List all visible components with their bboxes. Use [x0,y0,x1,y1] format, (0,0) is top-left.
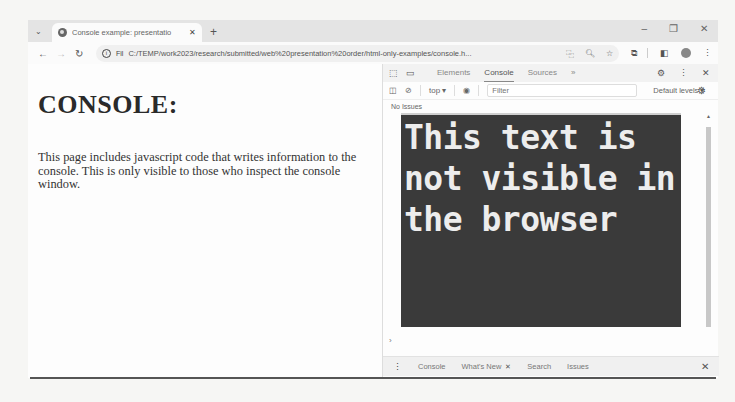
tab-strip: ⌄ Console example: presentatio ✕ + – ❐ ✕ [28,20,718,42]
extensions-icon[interactable]: ⧉ [631,48,637,59]
tab-title: Console example: presentatio [72,28,184,37]
tab-elements[interactable]: Elements [437,64,470,82]
translate-icon[interactable]: ⿻ [566,48,574,59]
info-icon[interactable]: i [102,49,111,58]
drawer-tab-issues[interactable]: Issues [567,362,589,371]
kebab-menu-icon[interactable]: ⋮ [679,68,688,78]
minimize-icon[interactable]: – [641,23,647,34]
filter-input[interactable] [487,84,637,97]
url-text[interactable]: C:/TEMP/work2023/research/submitted/web%… [128,49,555,58]
browser-menu-icon[interactable]: ⋮ [703,48,712,58]
window-controls: – ❐ ✕ [641,23,708,34]
forward-button[interactable]: → [52,48,70,59]
profile-avatar[interactable] [681,48,691,58]
window-bottom-edge [30,377,716,379]
console-sidebar-icon[interactable]: ◫ [389,86,397,95]
console-prompt[interactable]: › [389,336,392,345]
drawer-tab-whats-new[interactable]: What's New [462,362,502,371]
bookmark-star-icon[interactable]: ☆ [606,49,613,58]
console-message-text: This text is not visible in the browser [401,115,681,240]
address-bar[interactable]: i Fil C:/TEMP/work2023/research/submitte… [96,45,619,62]
devtools-panel: ⬚ ▭ Elements Console Sources » ⚙ ⋮ ✕ ◫ ⊘… [382,64,718,378]
side-panel-icon[interactable]: ◧ [660,48,669,58]
console-message: This text is not visible in the browser [401,113,681,327]
browser-toolbar: ← → ↻ i Fil C:/TEMP/work2023/research/su… [28,42,718,64]
issues-status[interactable]: No Issues [383,100,718,114]
page-title: CONSOLE: [38,90,178,120]
browser-tab[interactable]: Console example: presentatio ✕ [52,23,202,42]
devtools-tab-bar: ⬚ ▭ Elements Console Sources » ⚙ ⋮ ✕ [383,64,718,82]
device-toolbar-icon[interactable]: ▭ [406,68,415,78]
globe-icon [58,28,67,37]
drawer-tab-search[interactable]: Search [527,362,551,371]
tab-console[interactable]: Console [484,64,513,82]
new-tab-button[interactable]: + [210,25,217,39]
gear-icon[interactable]: ⚙ [657,68,665,78]
zoom-icon[interactable]: 🔍︎ [585,49,595,58]
close-icon[interactable]: ✕ [702,68,710,78]
divider [454,85,455,96]
context-selector[interactable]: top ▾ [429,86,446,95]
back-button[interactable]: ← [34,48,52,59]
devtools-actions: ⚙ ⋮ ✕ [657,64,710,82]
close-icon[interactable]: ✕ [505,363,511,371]
divider [478,85,479,96]
close-icon[interactable]: ✕ [189,28,196,37]
clear-console-icon[interactable]: ⊘ [405,86,412,95]
divider [420,85,421,96]
drawer-tab-console[interactable]: Console [418,362,446,371]
close-window-icon[interactable]: ✕ [700,23,708,34]
console-toolbar: ◫ ⊘ top ▾ ◉ Default levels ▾ ⚙ [383,82,718,100]
restore-icon[interactable]: ❐ [669,23,678,34]
inspect-element-icon[interactable]: ⬚ [389,68,398,78]
eye-icon[interactable]: ◉ [463,86,470,95]
page-description: This page includes javascript code that … [38,151,383,192]
page-content: CONSOLE: This page includes javascript c… [28,64,382,378]
reload-button[interactable]: ↻ [70,48,88,59]
browser-window: ⌄ Console example: presentatio ✕ + – ❐ ✕… [28,20,718,378]
more-tabs-button[interactable]: » [571,64,575,82]
scrollbar-thumb[interactable] [706,127,711,327]
toolbar-divider [647,48,648,58]
scroll-up-arrow-icon[interactable]: ▲ [705,113,712,121]
tab-search-button[interactable]: ⌄ [28,20,48,42]
console-scrollbar[interactable]: ▲ [705,113,712,343]
chevron-down-icon: ⌄ [35,27,42,36]
file-scheme-label: Fil [116,50,123,57]
devtools-drawer: ⋮ Console What's New ✕ Search Issues ✕ [383,356,719,376]
drawer-menu-icon[interactable]: ⋮ [393,362,402,372]
tab-sources[interactable]: Sources [528,64,557,82]
gear-icon[interactable]: ⚙ [697,85,706,96]
close-drawer-icon[interactable]: ✕ [701,361,709,372]
